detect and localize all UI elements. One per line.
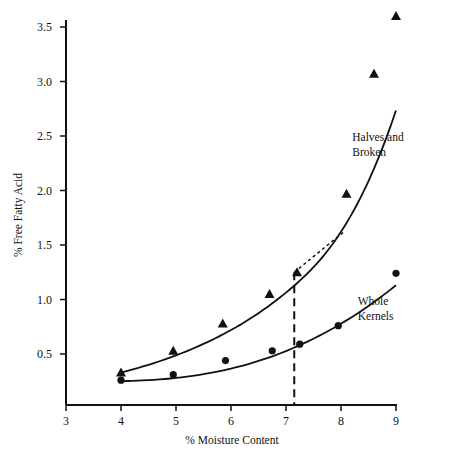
x-tick-label: 3 [63,414,69,428]
circle-marker [170,371,177,378]
x-tick-label: 6 [228,414,234,428]
y-tick-label: 3.0 [37,75,52,89]
triangle-marker [218,318,228,327]
curve-label: Halves and [352,131,404,143]
chart: 0.51.01.52.02.53.03.5 3456789 Halves and… [0,0,451,456]
y-tick-label: 2.0 [37,184,52,198]
x-tick-label: 7 [283,414,289,428]
circle-marker [335,322,342,329]
curve-label: Broken [352,146,386,158]
y-tick-label: 3.5 [37,20,52,34]
circle-marker [296,341,303,348]
series-markers [116,11,401,384]
y-axis-ticks: 0.51.01.52.02.53.03.5 [37,20,66,361]
circle-marker [222,357,229,364]
plot-area: 0.51.01.52.02.53.03.5 3456789 Halves and… [37,11,404,428]
y-tick-label: 2.5 [37,129,52,143]
x-tick-label: 4 [118,414,124,428]
reference-lines [294,232,344,405]
triangle-marker [265,289,275,298]
x-tick-label: 8 [338,414,344,428]
triangle-marker [391,11,401,20]
x-tick-label: 5 [173,414,179,428]
x-axis-ticks: 3456789 [63,405,399,428]
y-axis-title: % Free Fatty Acid [12,173,25,257]
y-tick-label: 1.0 [37,293,52,307]
triangle-marker [292,267,302,276]
circle-marker [392,270,399,277]
curve-label: Kernels [358,310,394,322]
y-tick-label: 1.5 [37,238,52,252]
curve-label: Whole [358,295,389,307]
curve-whole-kernels [121,285,396,381]
x-axis-title: % Moisture Content [185,434,279,446]
x-tick-label: 9 [393,414,399,428]
triangle-marker [168,346,178,355]
triangle-marker [369,69,379,78]
circle-marker [117,377,124,384]
triangle-marker [342,189,352,198]
y-tick-label: 0.5 [37,347,52,361]
circle-marker [269,347,276,354]
